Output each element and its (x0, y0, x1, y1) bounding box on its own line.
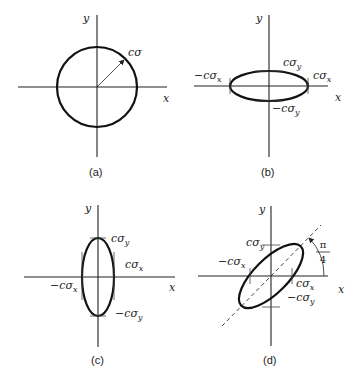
y-axis-label: y (255, 12, 263, 25)
label-pos-c-sigma-y: cσy (246, 236, 265, 251)
label-pos-c-sigma-x: cσx (313, 69, 332, 84)
panel-c: cσy cσx −cσx −cσy y x (c) (24, 202, 176, 366)
radius-label: cσ (128, 46, 142, 59)
angle-numerator: π (320, 239, 327, 250)
label-neg-c-sigma-y: −cσy (115, 307, 143, 322)
panel-a: cσ y x (a) (18, 12, 170, 178)
x-axis-label: x (169, 281, 176, 294)
y-axis-label: y (84, 202, 92, 215)
y-axis-label: y (82, 12, 90, 25)
label-neg-c-sigma-x: −cσx (218, 255, 246, 270)
x-axis-label: x (335, 91, 342, 104)
label-neg-c-sigma-x: −cσx (194, 69, 222, 84)
label-pos-c-sigma-x: cσx (296, 277, 315, 292)
confidence-ellipses-figure: cσ y x (a) cσy −cσx cσx −cσy y x (b) cσy… (0, 0, 362, 380)
label-pos-c-sigma-y: cσy (111, 232, 130, 247)
label-pos-c-sigma-x: cσx (125, 258, 144, 273)
y-axis-label: y (258, 203, 266, 216)
panel-d: π 4 cσy −cσx cσx −cσy y x (d) (198, 203, 345, 366)
label-pos-c-sigma-y: cσy (283, 56, 302, 71)
radius-arrow-icon (97, 60, 124, 87)
x-axis-label: x (338, 283, 345, 296)
label-neg-c-sigma-y: −cσy (287, 291, 315, 306)
caption-b: (b) (261, 166, 274, 178)
caption-a: (a) (89, 166, 102, 178)
label-neg-c-sigma-x: −cσx (50, 279, 78, 294)
x-axis-label: x (163, 92, 170, 105)
caption-c: (c) (91, 354, 104, 366)
label-neg-c-sigma-y: −cσy (272, 102, 300, 117)
panel-b: cσy −cσx cσx −cσy y x (b) (194, 12, 342, 178)
caption-d: (d) (263, 354, 276, 366)
angle-denominator: 4 (320, 254, 326, 265)
